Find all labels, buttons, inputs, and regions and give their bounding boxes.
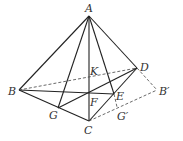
edge-AE <box>89 16 114 94</box>
label-B: B <box>7 85 16 98</box>
solid-edges <box>19 16 137 121</box>
label-G: G <box>49 109 58 122</box>
edge-AD <box>89 16 137 68</box>
label-C: C <box>84 124 93 137</box>
label-E: E <box>115 90 124 103</box>
label-K: K <box>89 65 99 78</box>
edge-BE <box>19 90 114 94</box>
dashed-edges <box>19 68 157 121</box>
label-A: A <box>84 2 93 15</box>
label-F: F <box>89 96 98 109</box>
label-D: D <box>139 61 149 74</box>
label-Gprime: G′ <box>117 110 129 123</box>
label-Bprime: B′ <box>158 85 170 98</box>
tetrahedron-diagram: A B C D G E F K B′ G′ <box>0 0 183 141</box>
